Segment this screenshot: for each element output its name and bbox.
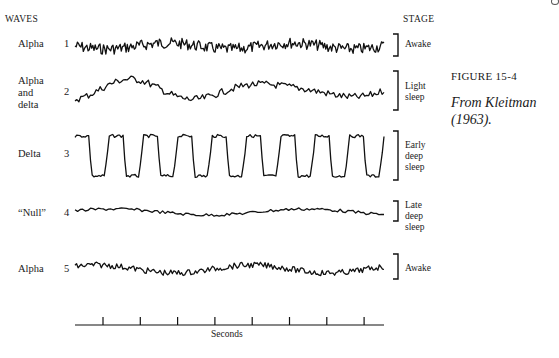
stage-bracket-3 bbox=[393, 131, 398, 180]
stage-bracket-4 bbox=[393, 201, 398, 221]
eeg-trace-null-late-deep-sleep bbox=[75, 208, 384, 216]
eeg-trace-alpha-awake bbox=[75, 38, 384, 54]
stage-bracket-1 bbox=[393, 34, 398, 56]
eeg-trace-delta-early-deep-sleep bbox=[75, 135, 384, 178]
eeg-trace-alpha-awake-2 bbox=[75, 262, 384, 275]
stage-bracket-5 bbox=[393, 254, 398, 279]
time-axis-ticks bbox=[103, 317, 364, 325]
stage-bracket-2 bbox=[393, 71, 398, 110]
eeg-trace-alpha-delta-light-sleep bbox=[75, 76, 384, 102]
eeg-traces bbox=[0, 0, 559, 358]
